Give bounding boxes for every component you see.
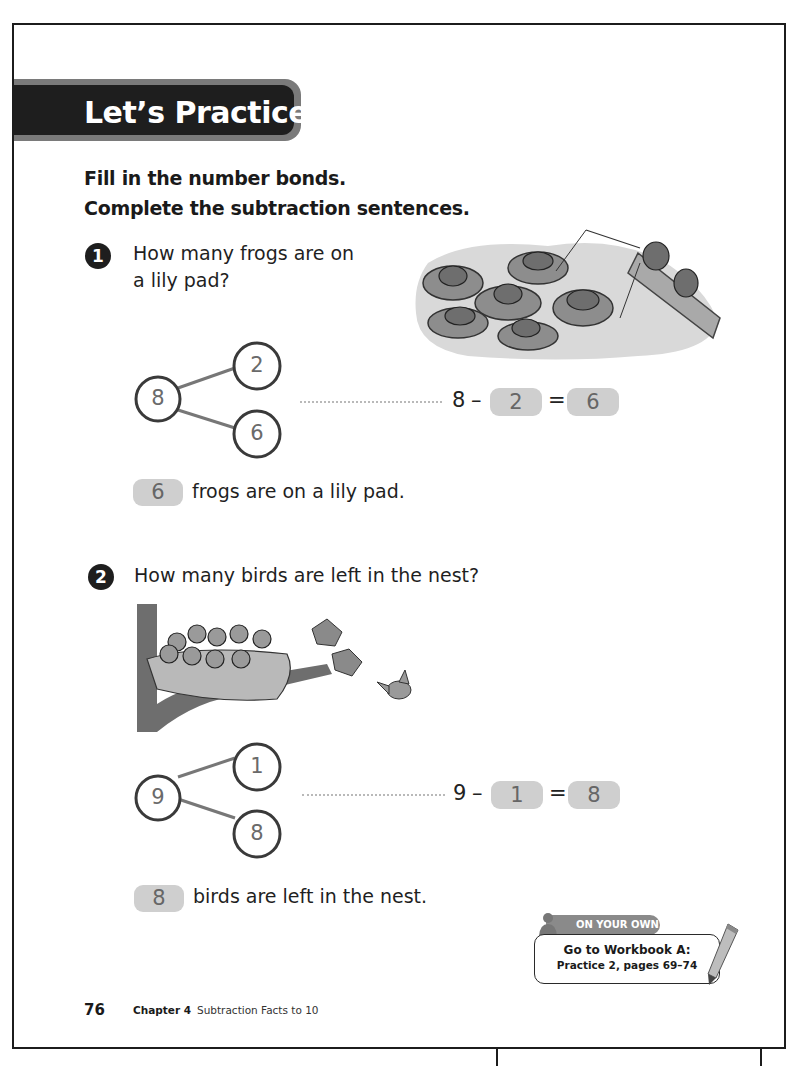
- equation-equals: =: [548, 388, 566, 412]
- prompt-line: a lily pad?: [133, 267, 354, 294]
- question-number-badge: 2: [88, 564, 114, 590]
- answer-box[interactable]: 6: [133, 479, 183, 506]
- answer-box[interactable]: 8: [134, 885, 184, 912]
- prompt-line: How many frogs are on: [133, 240, 354, 267]
- answer-sentence: frogs are on a lily pad.: [192, 480, 405, 502]
- dotted-leader: [300, 401, 442, 403]
- instruction-line: Fill in the number bonds.: [84, 163, 470, 193]
- difference-answer-box[interactable]: 8: [568, 781, 620, 809]
- frogs-on-lily-pads-illustration: [408, 228, 728, 363]
- chapter-label: Chapter 4: [133, 1004, 191, 1016]
- question-prompt: How many birds are left in the nest?: [134, 562, 479, 589]
- crop-mark: [760, 1049, 762, 1066]
- dotted-leader: [302, 794, 445, 796]
- question-number-badge: 1: [85, 243, 111, 269]
- workbook-reference: Go to Workbook A: Practice 2, pages 69–7…: [534, 934, 720, 984]
- bond-whole: 9: [138, 785, 178, 809]
- instruction-line: Complete the subtraction sentences.: [84, 193, 470, 223]
- question-prompt: How many frogs are on a lily pad?: [133, 240, 354, 294]
- difference-answer-box[interactable]: 6: [567, 388, 619, 416]
- answer-sentence: birds are left in the nest.: [193, 885, 427, 907]
- bond-part[interactable]: 2: [237, 353, 277, 377]
- bond-part[interactable]: 8: [237, 821, 277, 845]
- birds-in-nest-illustration: [137, 604, 427, 734]
- on-your-own-callout: ON YOUR OWN Go to Workbook A: Practice 2…: [530, 912, 750, 992]
- page-title: Let’s Practice: [84, 93, 308, 133]
- page-number: 76: [84, 1001, 105, 1019]
- equation-minuend: 8: [452, 388, 465, 412]
- crop-mark: [496, 1049, 498, 1066]
- bond-part[interactable]: 1: [237, 754, 277, 778]
- pencil-icon: [706, 922, 742, 988]
- on-your-own-tab: ON YOUR OWN: [546, 915, 660, 935]
- chapter-title: Subtraction Facts to 10: [197, 1004, 319, 1016]
- workbook-pages: Practice 2, pages 69–74: [535, 958, 719, 973]
- subtrahend-answer-box[interactable]: 2: [490, 388, 542, 416]
- bond-part[interactable]: 6: [237, 421, 277, 445]
- equation-minus: –: [471, 388, 482, 412]
- workbook-line: Go to Workbook A:: [535, 942, 719, 958]
- instructions: Fill in the number bonds. Complete the s…: [84, 163, 470, 223]
- equation-minuend: 9: [453, 781, 466, 805]
- person-icon: [538, 912, 558, 936]
- bond-whole: 8: [138, 386, 178, 410]
- equation-equals: =: [549, 781, 567, 805]
- equation-minus: –: [472, 781, 483, 805]
- subtrahend-answer-box[interactable]: 1: [491, 781, 543, 809]
